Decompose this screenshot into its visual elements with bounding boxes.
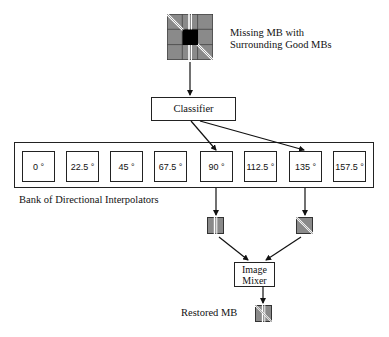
connector-arrows <box>0 0 389 337</box>
